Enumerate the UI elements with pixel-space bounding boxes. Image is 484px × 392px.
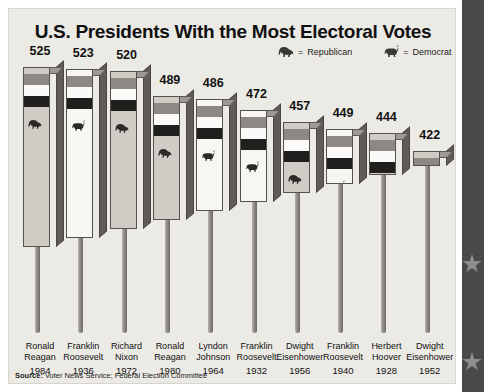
bar-label: DwightEisenhower1952 (406, 341, 454, 377)
bar-column[interactable]: 422 (413, 49, 451, 339)
bar-chart: 525523520489486472457449444422 (9, 49, 457, 339)
source-note: Source: Voter News Service; Federal Elec… (15, 371, 207, 380)
bar-stripe (197, 128, 222, 139)
president-last-name: Roosevelt (319, 352, 367, 363)
bar-label: HerbertHoover1928 (362, 341, 410, 377)
donkey-icon (70, 117, 85, 135)
elephant-icon (287, 170, 302, 188)
bar-stripe (370, 162, 395, 173)
bar-column[interactable]: 449 (326, 49, 364, 339)
bar-stripe (197, 117, 222, 128)
bar-stripe (111, 78, 136, 89)
bar-front-face (413, 151, 440, 166)
president-last-name: Reagan (146, 352, 194, 363)
bar-pole (165, 214, 170, 333)
bar-front-face (153, 96, 180, 220)
bar-column[interactable]: 472 (240, 49, 278, 339)
election-year: 1956 (276, 366, 324, 377)
election-year: 1940 (319, 366, 367, 377)
bar-column[interactable]: 525 (23, 49, 61, 339)
bar-stripe (284, 129, 309, 140)
president-first-name: Lyndon (189, 341, 237, 352)
bar-front-face (196, 99, 223, 211)
president-first-name: Franklin (59, 341, 107, 352)
bar-box (196, 99, 230, 211)
bar-value-label: 472 (240, 87, 274, 101)
president-first-name: Franklin (233, 341, 281, 352)
bar-pole (35, 241, 40, 333)
elephant-icon (27, 115, 42, 133)
bar-stripe (284, 140, 309, 151)
president-last-name: Eisenhower (276, 352, 324, 363)
president-last-name: Johnson (189, 352, 237, 363)
bar-stripe (67, 76, 92, 87)
bar-side-face (143, 64, 151, 229)
bar-label: FranklinRoosevelt1932 (233, 341, 281, 377)
bar-stripe (24, 74, 49, 85)
bar-value-label: 520 (110, 48, 144, 62)
bar-value-label: 523 (66, 46, 100, 60)
bar-value-label: 449 (326, 106, 360, 120)
bar-stripe (111, 89, 136, 100)
bar-stripe (154, 103, 179, 114)
decorative-right-band (462, 0, 484, 392)
president-last-name: Reagan (16, 352, 64, 363)
bar-front-face (110, 71, 137, 229)
bar-stripe (154, 114, 179, 125)
president-last-name: Eisenhower (406, 352, 454, 363)
bar-front-face (283, 122, 310, 193)
bar-column[interactable]: 457 (283, 49, 321, 339)
president-first-name: Herbert (362, 341, 410, 352)
election-year: 1932 (233, 366, 281, 377)
bar-value-label: 422 (413, 128, 447, 142)
bar-stripe (154, 125, 179, 136)
bar-stripe (197, 106, 222, 117)
president-first-name: Dwight (406, 341, 454, 352)
bar-stripe (241, 139, 266, 150)
bar-box (326, 129, 360, 184)
bar-column[interactable]: 486 (196, 49, 234, 339)
bar-box (153, 96, 187, 220)
bar-label: DwightEisenhower1956 (276, 341, 324, 377)
bar-pole (338, 178, 343, 333)
bar-box (66, 69, 100, 238)
bar-stripe (67, 87, 92, 98)
bar-stripe (284, 151, 309, 162)
election-year: 1952 (406, 366, 454, 377)
bar-stripe (67, 98, 92, 109)
bar-column[interactable]: 489 (153, 49, 191, 339)
bar-column[interactable]: 444 (369, 49, 407, 339)
bar-column[interactable]: 523 (66, 49, 104, 339)
bar-pole (78, 232, 83, 333)
bar-value-label: 444 (369, 110, 403, 124)
bar-front-face (240, 110, 267, 202)
bar-box (413, 151, 447, 166)
bar-pole (425, 160, 430, 333)
bar-label: FranklinRoosevelt1940 (319, 341, 367, 377)
bar-front-face (23, 67, 50, 247)
president-first-name: Ronald (146, 341, 194, 352)
bar-stripe (327, 147, 352, 158)
page-title: U.S. Presidents With the Most Electoral … (9, 21, 457, 43)
chart-panel: U.S. Presidents With the Most Electoral … (8, 8, 456, 384)
bar-value-label: 525 (23, 44, 57, 58)
bar-box (23, 67, 57, 247)
donkey-icon (244, 158, 259, 176)
bar-side-face (186, 90, 194, 220)
bar-value-label: 489 (153, 73, 187, 87)
bar-column[interactable]: 520 (110, 49, 148, 339)
infographic-root: U.S. Presidents With the Most Electoral … (0, 0, 484, 392)
president-first-name: Franklin (319, 341, 367, 352)
bar-side-face (99, 62, 107, 238)
president-first-name: Richard (103, 341, 151, 352)
president-first-name: Dwight (276, 341, 324, 352)
bar-value-label: 457 (283, 99, 317, 113)
bar-pole (381, 169, 386, 333)
donkey-icon (330, 177, 345, 184)
president-first-name: Ronald (16, 341, 64, 352)
elephant-icon (114, 119, 129, 137)
bar-stripe (24, 96, 49, 107)
source-prefix: Source: (15, 371, 43, 380)
bar-box (240, 110, 274, 202)
star-icon (462, 254, 482, 274)
